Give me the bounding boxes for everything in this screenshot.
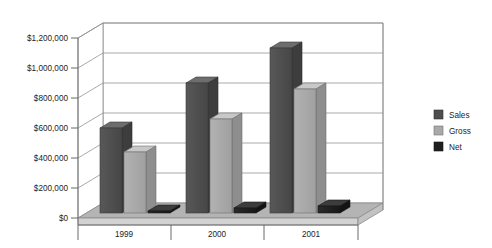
bar-side-face	[316, 83, 326, 213]
bar-front-face	[186, 83, 208, 213]
x-axis-labels: 1999 2000 2001	[115, 230, 321, 239]
bar-front-face	[100, 128, 122, 213]
bar-front-face	[318, 206, 340, 213]
legend-label-net: Net	[449, 143, 462, 152]
bar-front-face	[270, 48, 292, 213]
y-tick-label-400000: $400,000	[34, 154, 69, 163]
x-category-label-2001: 2001	[302, 230, 321, 239]
bar-side-face	[146, 146, 156, 213]
y-tick-label-800000: $800,000	[34, 94, 69, 103]
y-tick-label-1000000: $1,000,000	[27, 64, 68, 73]
bar-front-face	[294, 89, 316, 213]
y-axis-labels: $0 $200,000 $400,000 $600,000 $800,000 $…	[27, 34, 68, 223]
x-category-label-2000: 2000	[208, 230, 227, 239]
chart-canvas: $0 $200,000 $400,000 $600,000 $800,000 $…	[0, 0, 492, 248]
bar-2000-gross	[210, 113, 242, 213]
bar-front-face	[148, 211, 170, 213]
floor-front-edge	[78, 218, 358, 225]
bar-front-face	[234, 208, 256, 213]
y-tick-marks	[71, 38, 78, 218]
bar-front-face	[124, 152, 146, 213]
legend-label-gross: Gross	[449, 127, 471, 136]
legend-swatch-sales	[434, 110, 443, 119]
legend-swatch-gross	[434, 126, 443, 135]
legend-label-sales: Sales	[449, 111, 469, 120]
bar-front-face	[210, 119, 232, 213]
y-tick-label-1200000: $1,200,000	[27, 34, 68, 43]
y-tick-label-600000: $600,000	[34, 124, 69, 133]
y-tick-label-200000: $200,000	[34, 184, 69, 193]
bar-1999-gross	[124, 146, 156, 213]
legend-swatch-net	[434, 142, 443, 151]
bar-chart-3d: $0 $200,000 $400,000 $600,000 $800,000 $…	[0, 0, 492, 248]
x-category-label-1999: 1999	[115, 230, 134, 239]
bar-2001-gross	[294, 83, 326, 213]
legend: Sales Gross Net	[434, 110, 471, 152]
y-tick-label-0: $0	[59, 214, 69, 223]
bar-side-face	[232, 113, 242, 213]
